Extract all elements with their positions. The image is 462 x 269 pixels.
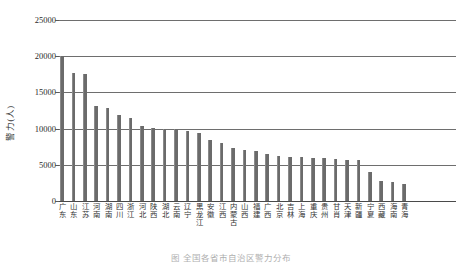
bar (163, 129, 167, 201)
bar (288, 157, 292, 201)
x-axis-tick-label: 河南 (91, 203, 102, 219)
x-axis-tick-label: 河北 (137, 203, 148, 219)
x-axis-tick-label: 贵州 (319, 203, 330, 219)
bar (300, 157, 304, 201)
x-axis-tick-label: 海南 (388, 203, 399, 219)
bar (368, 172, 372, 201)
bar (231, 148, 235, 201)
bar (254, 151, 258, 201)
x-axis-tick-label: 湖北 (160, 203, 171, 219)
x-axis-tick-label: 青海 (399, 203, 410, 219)
y-axis-tick-label: 5000 (16, 161, 56, 170)
x-axis-tick-labels: 广东山东江苏河南湖南四川浙江河北陕西湖北云南辽宁黑龙江安徽江西内蒙古山西福建广西… (58, 203, 456, 247)
bar (151, 128, 155, 201)
bar (322, 158, 326, 201)
x-axis-tick-label: 广西 (262, 203, 273, 219)
bar (197, 133, 201, 201)
x-axis-tick-label: 西藏 (376, 203, 387, 219)
bar-series (58, 20, 456, 201)
bar (186, 131, 190, 201)
bar (94, 106, 98, 201)
bar (83, 74, 87, 201)
plot-area (58, 20, 456, 201)
bar (220, 143, 224, 201)
y-axis-tick-label: 0 (16, 197, 56, 206)
x-axis-tick-label: 天津 (342, 203, 353, 219)
bar (391, 182, 395, 201)
x-axis-tick-label: 安徽 (205, 203, 216, 219)
bar (265, 154, 269, 201)
x-axis-tick-label: 福建 (251, 203, 262, 219)
bar (60, 56, 64, 201)
x-axis-tick-label: 吉林 (285, 203, 296, 219)
x-axis-tick-label: 辽宁 (182, 203, 193, 219)
bar (117, 115, 121, 201)
bar (140, 126, 144, 201)
bar (402, 184, 406, 201)
x-axis-tick-label: 山西 (239, 203, 250, 219)
y-axis-tick-label: 10000 (16, 124, 56, 133)
bar-chart-figure: 警力(人) 0500010000150002000025000 广东山东江苏河南… (0, 0, 462, 269)
x-axis-tick-label: 广东 (57, 203, 68, 219)
bar (379, 181, 383, 201)
x-axis-tick-label: 江西 (217, 203, 228, 219)
x-axis-tick-label: 北京 (274, 203, 285, 219)
x-axis-tick-label: 黑龙江 (194, 203, 205, 226)
x-axis-tick-label: 四川 (114, 203, 125, 219)
bar (208, 140, 212, 201)
bar (129, 118, 133, 201)
bar (334, 159, 338, 201)
bar (174, 129, 178, 201)
y-axis-tick-label: 15000 (16, 88, 56, 97)
y-axis-tick-label: 25000 (16, 16, 56, 25)
x-axis-tick-label: 新疆 (353, 203, 364, 219)
bar (311, 158, 315, 201)
x-axis-tick-label: 湖南 (103, 203, 114, 219)
bar (277, 156, 281, 201)
x-axis-tick-label: 宁夏 (365, 203, 376, 219)
x-axis-tick-label: 重庆 (308, 203, 319, 219)
bar (345, 160, 349, 201)
bar (72, 73, 76, 201)
y-axis-tick-label: 20000 (16, 52, 56, 61)
x-axis-tick-label: 浙江 (125, 203, 136, 219)
bar (357, 160, 361, 201)
x-axis-tick-label: 江苏 (80, 203, 91, 219)
x-axis-tick-label: 陕西 (148, 203, 159, 219)
x-axis-tick-label: 上海 (296, 203, 307, 219)
figure-caption: 图 全国各省市自治区警力分布 (0, 253, 462, 269)
x-axis-tick-label: 内蒙古 (228, 203, 239, 226)
y-axis-tick-labels: 0500010000150002000025000 (10, 0, 56, 269)
x-axis-tick-label: 山东 (68, 203, 79, 219)
bar (106, 108, 110, 201)
bar (243, 150, 247, 201)
x-axis-tick-label: 云南 (171, 203, 182, 219)
x-axis-tick-label: 甘肖 (331, 203, 342, 219)
